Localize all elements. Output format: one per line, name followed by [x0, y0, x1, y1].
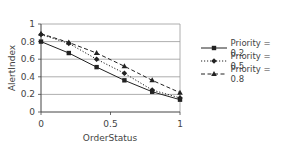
series-2	[38, 32, 183, 101]
y-tick-label: 1	[29, 19, 35, 29]
x-axis-label: OrderStatus	[83, 133, 138, 143]
x-tick-label: 0	[38, 119, 44, 129]
axes	[41, 24, 180, 112]
y-tick-label: 0.4	[21, 72, 36, 82]
series-3	[38, 31, 183, 95]
x-tick-label: 0.5	[103, 119, 117, 129]
y-axis-ticks: 00.20.40.60.81	[21, 19, 41, 117]
square-marker-icon	[200, 43, 228, 53]
x-axis-ticks: 00.51	[38, 112, 183, 129]
y-tick-label: 0.8	[21, 37, 36, 47]
x-tick-label: 1	[177, 119, 183, 129]
y-tick-label: 0.2	[21, 89, 35, 99]
legend-label: Priority = 0.8	[231, 64, 286, 84]
chart-legend: Priority = 0.2Priority = 0.5Priority = 0…	[200, 41, 286, 80]
y-tick-label: 0	[29, 107, 35, 117]
series-1	[39, 39, 182, 101]
triangle-marker-icon	[200, 69, 228, 79]
y-tick-label: 0.6	[21, 54, 36, 64]
gridlines	[41, 24, 180, 112]
diamond-marker-icon	[200, 56, 228, 66]
legend-item: Priority = 0.8	[200, 67, 286, 80]
line-chart: 00.20.40.60.81 00.51 OrderStatus AlertIn…	[0, 0, 190, 162]
y-axis-label: AlertIndex	[7, 44, 17, 91]
